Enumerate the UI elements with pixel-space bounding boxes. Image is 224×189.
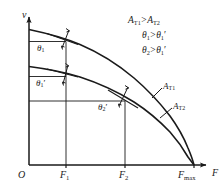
theta1-sub: 1: [41, 47, 44, 53]
tick-label-f1: F1: [60, 170, 69, 181]
curve-a-t2-sub: T2: [179, 105, 186, 111]
leader-line-a-t1: [152, 88, 162, 98]
arrow-down-theta1-prime: [63, 82, 66, 86]
origin-label: O: [18, 170, 25, 180]
legend-1-left-sub: T1: [134, 19, 141, 26]
legend-2-right-prime: ′: [164, 30, 166, 40]
tick-f2-sub: 2: [125, 174, 128, 181]
angle-marker-theta2-prime: [108, 86, 138, 109]
theta2p-prime-mark: ′: [105, 102, 107, 112]
tangent-line-theta1-prime: [47, 69, 78, 77]
legend-line-1: AT1>AT2: [128, 16, 160, 26]
legend-block: AT1>AT2 θ1>θ1′ θ2>θ1′: [128, 16, 160, 45]
tangent-line-theta1: [47, 34, 78, 45]
legend-line-2: θ1>θ1′: [142, 31, 174, 41]
normal-line-theta2-prime: [119, 87, 128, 106]
arrow-down-theta1: [62, 46, 65, 50]
tick-fmax-sub: max: [184, 174, 195, 181]
angle-marker-theta1: [47, 29, 78, 50]
curve-label-a-t1: AT1: [163, 82, 175, 92]
tick-label-fmax: Fmax: [178, 170, 195, 181]
curve-a-t1-sub: T1: [169, 85, 176, 91]
x-axis-label: F: [212, 168, 218, 178]
arrow-up-theta1: [66, 29, 70, 33]
angle-label-theta1: θ1: [37, 44, 44, 54]
legend-3-right-prime: ′: [164, 45, 166, 55]
angle-label-theta2-prime: θ2′: [98, 103, 107, 113]
tangent-line-theta2-prime: [108, 90, 138, 108]
tick-f1-sub: 1: [66, 174, 69, 181]
legend-line-3: θ2>θ1′: [142, 46, 174, 56]
figure-canvas: [0, 0, 224, 189]
angle-label-theta1-prime: θ1′: [36, 79, 45, 89]
arrow-up-theta2-prime: [125, 86, 129, 90]
y-axis-label: v: [22, 10, 26, 20]
legend-1-right-sub: T2: [153, 19, 160, 26]
tick-label-f2: F2: [119, 170, 128, 181]
curve-label-a-t2: AT2: [173, 102, 185, 112]
theta1p-prime-mark: ′: [43, 78, 45, 88]
fv-characteristic-figure: v F O F1 F2 Fmax AT1 AT2 θ1 θ1′ θ2′ AT1>…: [0, 0, 224, 189]
arrow-down-theta2-prime: [119, 104, 122, 108]
